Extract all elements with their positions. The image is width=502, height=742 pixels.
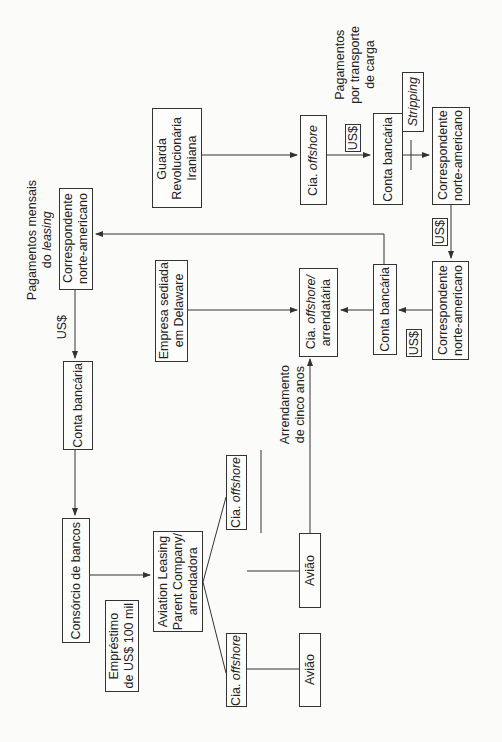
usd-tag-mid: US$ <box>406 329 422 357</box>
cia-offshore-b-box: Cia. offshore <box>226 633 247 707</box>
cia-offshore-top-box: Cia. offshore <box>300 115 327 205</box>
guarda-revolucionaria-label: GuardaRevolucionáriaIraniana <box>155 117 200 200</box>
conta-bancaria-top-box: Conta bancária <box>373 113 403 205</box>
usd-tag-right: US$ <box>432 218 448 246</box>
usd-tag-top: US$ <box>345 124 361 152</box>
correspondente-bottom-box: Correspondentenorte-americano <box>432 261 469 360</box>
aviao-b-box: Avião <box>299 633 321 707</box>
conta-bancaria-left-box: Conta bancária <box>63 361 93 450</box>
guarda-revolucionaria-box: GuardaRevolucionáriaIraniana <box>152 108 202 208</box>
consorcio-bancos-box: Consórcio de bancos <box>62 518 90 643</box>
aviao-a-box: Avião <box>299 533 321 608</box>
cia-arrendataria-box: Cia. offshore/arrendatária <box>299 268 338 357</box>
correspondente-left-box: Correspondentenorte-americano <box>59 188 93 290</box>
correspondente-top-box: Correspondentenorte-americano <box>432 107 470 205</box>
cia-offshore-a-box: Cia. offshore <box>226 455 247 530</box>
pagamentos-transporte-label: Pagamentospor transportede carga <box>333 26 377 104</box>
conta-bancaria-mid-box: Conta bancária <box>373 264 397 355</box>
aviation-leasing-box: Aviation LeasingParent Company/arrendado… <box>153 531 203 632</box>
emprestimo-box: Empréstimode US$ 100 mil <box>105 600 139 692</box>
arrendamento-label: Arrendamentode cinco anos <box>275 365 311 445</box>
cia-offshore-top-label: Cia. offshore <box>306 125 321 196</box>
usd-label-left: US$ <box>52 312 72 342</box>
stripping-box: Stripping <box>402 72 424 132</box>
pagamentos-leasing-label: Pagamentos mensaisdo leasing <box>20 178 60 302</box>
empresa-delaware-box: Empresa sediadaem Delaware <box>155 260 188 362</box>
